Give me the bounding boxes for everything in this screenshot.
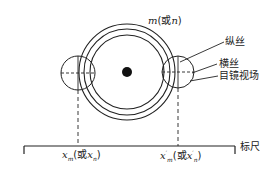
center-dot bbox=[122, 67, 132, 77]
horizontal-wire-label: 横丝 bbox=[219, 59, 239, 69]
vertical-wire-leader bbox=[180, 42, 224, 62]
left-reading-label: xm(或xn) bbox=[62, 150, 101, 162]
vertical-wire-label: 纵丝 bbox=[225, 37, 245, 47]
eyepiece-field-label: 目镜视场 bbox=[219, 71, 259, 81]
eyepiece-field-leader bbox=[190, 76, 218, 81]
newton-rings-diagram bbox=[0, 0, 277, 170]
right-reading-label: x′m(或x′n) bbox=[160, 150, 201, 163]
ring-order-label: m(或n) bbox=[148, 16, 182, 26]
scale-label: 标尺 bbox=[240, 142, 260, 152]
horizontal-wire-leader bbox=[192, 64, 217, 73]
